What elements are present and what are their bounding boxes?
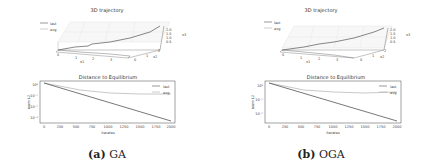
svg-text:1750: 1750	[152, 125, 161, 129]
panel-oga-plots: 3D trajectory 0123 x1 012 x2 2.01.51.00.…	[214, 0, 428, 145]
svg-text:Distance to Equilibrium: Distance to Equilibrium	[307, 74, 366, 81]
svg-text:1250: 1250	[120, 125, 129, 129]
svg-text:last: last	[274, 21, 281, 25]
panel-ga-plots: 3D trajectory 0123 x1 012 x2 2.01.51.00.…	[0, 0, 214, 145]
svg-text:x1: x1	[80, 60, 84, 64]
svg-text:avg: avg	[274, 27, 280, 31]
svg-text:0: 0	[57, 53, 59, 57]
svg-text:x3: x3	[406, 33, 410, 37]
svg-text:1500: 1500	[361, 125, 370, 129]
svg-text:10⁰: 10⁰	[257, 84, 263, 88]
svg-text:1250: 1250	[345, 125, 354, 129]
svg-text:0.5: 0.5	[390, 40, 396, 44]
svg-text:3D trajectory: 3D trajectory	[305, 7, 338, 14]
svg-text:10⁰: 10⁰	[32, 83, 38, 87]
svg-text:0: 0	[360, 58, 362, 62]
svg-text:500: 500	[298, 125, 305, 129]
svg-text:0: 0	[282, 53, 284, 57]
trajectory-3d-plot: 3D trajectory 0123 x1 012 x2 2.01.51.00.…	[40, 7, 186, 64]
svg-text:10⁻³: 10⁻³	[30, 116, 38, 120]
svg-text:iterates: iterates	[101, 131, 115, 135]
svg-text:3: 3	[336, 58, 338, 62]
svg-text:0: 0	[43, 125, 45, 129]
svg-text:3: 3	[110, 58, 112, 62]
svg-text:1000: 1000	[329, 125, 338, 129]
svg-text:750: 750	[314, 125, 321, 129]
svg-text:norm L2: norm L2	[27, 95, 31, 109]
svg-text:0.5: 0.5	[166, 40, 172, 44]
legend-avg: avg	[50, 28, 56, 32]
svg-text:750: 750	[89, 125, 96, 129]
svg-text:0: 0	[134, 58, 136, 62]
svg-text:2: 2	[384, 49, 386, 53]
svg-text:norm L2: norm L2	[251, 95, 255, 109]
svg-text:2000: 2000	[167, 125, 176, 129]
svg-text:x3: x3	[182, 33, 186, 37]
svg-text:2000: 2000	[393, 125, 402, 129]
svg-text:last: last	[390, 85, 397, 89]
svg-text:avg: avg	[390, 91, 396, 95]
svg-text:x2: x2	[380, 55, 384, 59]
distance-plot: Distance to Equilibrium last avg 10⁰10⁻¹…	[27, 74, 175, 135]
panel-ga: 3D trajectory 0123 x1 012 x2 2.01.51.00.…	[0, 0, 214, 168]
svg-text:2: 2	[158, 49, 160, 53]
legend-last: last	[50, 22, 57, 26]
svg-text:x1: x1	[306, 60, 310, 64]
svg-text:10⁻¹: 10⁻¹	[255, 98, 263, 102]
svg-text:250: 250	[57, 125, 64, 129]
svg-text:avg: avg	[163, 91, 169, 95]
svg-text:1000: 1000	[104, 125, 113, 129]
svg-text:x2: x2	[153, 55, 157, 59]
svg-text:10⁻²: 10⁻²	[255, 112, 263, 116]
svg-text:1: 1	[300, 56, 302, 60]
svg-text:2: 2	[318, 57, 320, 61]
svg-text:1: 1	[75, 56, 77, 60]
svg-text:10⁻¹: 10⁻¹	[30, 94, 38, 98]
svg-text:1: 1	[146, 54, 148, 58]
caption-ga: (a) GA	[0, 148, 214, 161]
svg-text:500: 500	[73, 125, 80, 129]
trajectory-3d-plot: 3D trajectory 0123 x1 012 x2 2.01.51.00.…	[264, 7, 410, 64]
svg-text:2: 2	[92, 57, 94, 61]
svg-text:10⁻²: 10⁻²	[30, 105, 38, 109]
trajectory-title: 3D trajectory	[91, 7, 124, 14]
svg-text:0: 0	[268, 125, 270, 129]
distance-title: Distance to Equilibrium	[79, 74, 138, 81]
svg-text:250: 250	[282, 125, 289, 129]
svg-text:last: last	[163, 85, 170, 89]
svg-text:1: 1	[372, 54, 374, 58]
svg-text:1750: 1750	[377, 125, 386, 129]
caption-oga: (b) OGA	[214, 148, 428, 161]
panel-oga: 3D trajectory 0123 x1 012 x2 2.01.51.00.…	[214, 0, 428, 168]
svg-text:1500: 1500	[136, 125, 145, 129]
distance-plot: Distance to Equilibrium last avg 10⁰10⁻¹…	[251, 74, 401, 135]
svg-text:iterates: iterates	[326, 131, 340, 135]
